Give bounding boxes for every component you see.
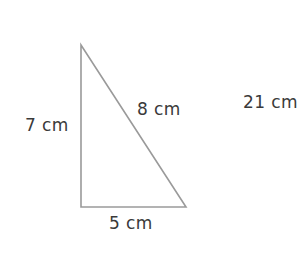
label-base-leg: 5 cm — [109, 215, 153, 232]
label-hypotenuse: 8 cm — [137, 101, 181, 118]
label-vertical-leg: 7 cm — [25, 117, 69, 134]
answer-text: 21 cm — [243, 94, 298, 111]
geometry-figure: 7 cm 8 cm 5 cm 21 cm — [0, 0, 301, 253]
triangle-outline — [81, 45, 186, 207]
